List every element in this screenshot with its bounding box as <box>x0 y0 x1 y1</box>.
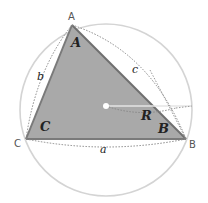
circumcenter-point <box>103 103 109 109</box>
vertex-label-c: C <box>14 138 21 149</box>
side-label-a: a <box>100 143 107 156</box>
angle-label-b: B <box>157 121 169 136</box>
radius-label-r: R <box>140 108 152 123</box>
vertex-label-a: A <box>68 11 75 22</box>
circumcircle-diagram: A C B A C B R a b c <box>0 0 208 203</box>
side-label-c: c <box>132 63 138 76</box>
side-label-b: b <box>37 70 44 83</box>
angle-label-c: C <box>40 119 51 134</box>
vertex-label-b: B <box>189 139 196 150</box>
angle-label-a: A <box>69 35 81 50</box>
